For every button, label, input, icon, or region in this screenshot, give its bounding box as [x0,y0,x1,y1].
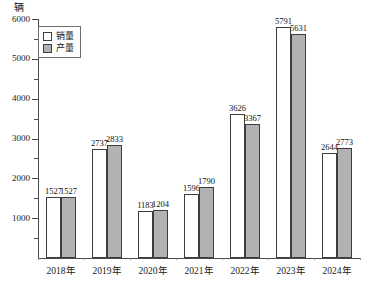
x-axis-label: 2022年 [231,266,260,277]
bar-sales-2018年 [46,197,61,258]
legend-label: 产量 [56,43,74,53]
x-tick-boundary [176,258,177,260]
x-tick-boundary [222,258,223,260]
y-tick-label: 3000 [0,134,30,143]
x-axis-label: 2020年 [139,266,168,277]
chart-legend: 销量产量 [38,26,81,58]
bars-layer: 1527152727372833118312041596179036263367… [38,19,360,258]
legend-item-output: 产量 [43,42,74,54]
bar-sales-2021年 [184,194,199,258]
bar-output-2024年 [337,148,352,258]
x-axis-label: 2019年 [93,266,122,277]
bar-value-label: 3626 [229,104,246,113]
bar-output-2021年 [199,187,214,258]
bar-output-2019年 [107,145,122,258]
legend-swatch-output-icon [43,44,52,53]
legend-item-sales: 销量 [43,30,74,42]
bar-sales-2024年 [322,153,337,258]
y-tick-label: 5000 [0,54,30,63]
x-axis-label: 2021年 [185,266,214,277]
bar-value-label: 1527 [60,187,77,196]
x-tick-boundary [130,258,131,260]
bar-value-label: 2833 [106,135,123,144]
bar-sales-2023年 [276,27,291,258]
x-tick-boundary [360,258,361,260]
x-tick-boundary [314,258,315,260]
y-tick-label: 4000 [0,94,30,103]
x-axis-label: 2023年 [277,266,306,277]
bar-value-label: 1596 [183,184,200,193]
y-axis-unit-label: 辆 [14,2,24,13]
bar-chart: 辆 100020003000400050006000 2018年2019年202… [0,0,368,292]
bar-output-2020年 [153,210,168,258]
bar-value-label: 1204 [152,200,169,209]
bar-sales-2019年 [92,149,107,258]
bar-value-label: 2773 [336,138,353,147]
y-tick-label: 2000 [0,174,30,183]
y-tick-label: 6000 [0,15,30,24]
bar-output-2018年 [61,197,76,258]
x-tick-boundary [84,258,85,260]
legend-label: 销量 [56,31,74,41]
legend-swatch-sales-icon [43,32,52,41]
x-tick-boundary [38,258,39,260]
bar-sales-2020年 [138,211,153,258]
bar-sales-2022年 [230,114,245,258]
bar-value-label: 1790 [198,177,215,186]
y-tick-label: 1000 [0,214,30,223]
bar-value-label: 5631 [290,24,307,33]
x-axis-label: 2024年 [323,266,352,277]
bar-value-label: 3367 [244,114,261,123]
bar-output-2023年 [291,34,306,258]
x-axis-line [38,258,360,259]
x-tick-boundary [268,258,269,260]
bar-output-2022年 [245,124,260,258]
x-axis-label: 2018年 [47,266,76,277]
